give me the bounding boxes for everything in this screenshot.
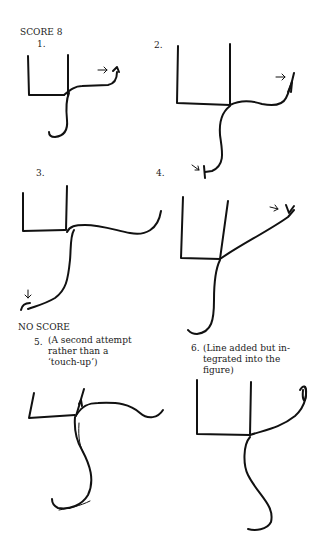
figure-5-drawing (29, 389, 163, 510)
figure-4-drawing (181, 197, 294, 334)
arrow-marker-icon (270, 205, 278, 211)
figure-2-drawing (177, 44, 294, 178)
arrow-marker-icon (25, 290, 31, 298)
arrow-marker-icon (192, 165, 199, 170)
arrow-marker-icon (276, 74, 285, 80)
drawings-canvas (0, 0, 323, 547)
figure-3-drawing (21, 186, 161, 310)
arrow-marker-icon (98, 67, 107, 73)
figure-6-drawing (197, 380, 306, 530)
figure-1-drawing (28, 55, 119, 137)
